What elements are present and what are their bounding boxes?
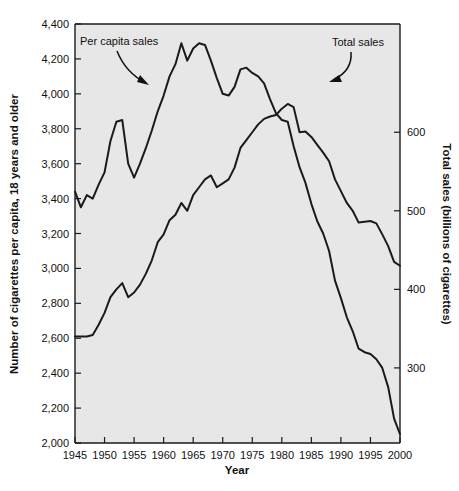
x-axis-tick-labels: 1945195019551960196519701975198019851990…: [63, 449, 412, 461]
x-tick-label: 2000: [388, 449, 412, 461]
y-left-tick-label: 2,400: [41, 367, 69, 379]
chart-figure: 2,0002,2002,4002,6002,8003,0003,2003,400…: [0, 0, 459, 491]
y-left-tick-label: 4,200: [41, 53, 69, 65]
y-right-tick-label: 300: [407, 362, 425, 374]
y-left-tick-label: 3,000: [41, 262, 69, 274]
annotation-label-per-capita-sales: Per capita sales: [80, 35, 159, 47]
y-axis-right-tick-labels: 300400500600: [407, 126, 425, 374]
y-left-tick-label: 2,200: [41, 402, 69, 414]
y-left-tick-label: 3,600: [41, 158, 69, 170]
y-axis-right-title: Total sales (billions of cigarettes): [441, 143, 453, 324]
x-tick-label: 1990: [329, 449, 353, 461]
x-tick-label: 1960: [151, 449, 175, 461]
y-left-tick-label: 2,000: [41, 437, 69, 449]
y-axis-left-title: Number of cigarettes per capita, 18 year…: [8, 94, 20, 374]
x-tick-label: 1995: [358, 449, 382, 461]
x-tick-label: 1970: [210, 449, 234, 461]
x-tick-label: 1980: [270, 449, 294, 461]
plot-background: [75, 24, 400, 443]
y-left-tick-label: 2,600: [41, 332, 69, 344]
x-tick-label: 1955: [122, 449, 146, 461]
x-tick-label: 1950: [92, 449, 116, 461]
y-left-tick-label: 3,400: [41, 193, 69, 205]
y-left-tick-label: 3,200: [41, 228, 69, 240]
y-left-tick-label: 4,400: [41, 18, 69, 30]
y-left-tick-label: 2,800: [41, 297, 69, 309]
x-tick-label: 1975: [240, 449, 264, 461]
x-tick-label: 1985: [299, 449, 323, 461]
y-right-tick-label: 600: [407, 126, 425, 138]
y-right-tick-label: 500: [407, 205, 425, 217]
annotation-label-total-sales: Total sales: [332, 36, 384, 48]
y-left-tick-label: 4,000: [41, 88, 69, 100]
y-right-tick-label: 400: [407, 283, 425, 295]
x-tick-label: 1945: [63, 449, 87, 461]
x-tick-label: 1965: [181, 449, 205, 461]
x-axis-title: Year: [225, 464, 250, 476]
dual-axis-line-chart: 2,0002,2002,4002,6002,8003,0003,2003,400…: [0, 0, 459, 491]
y-left-tick-label: 3,800: [41, 123, 69, 135]
y-axis-left-tick-labels: 2,0002,2002,4002,6002,8003,0003,2003,400…: [41, 18, 69, 449]
